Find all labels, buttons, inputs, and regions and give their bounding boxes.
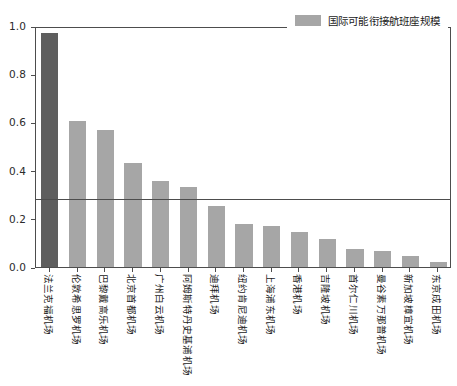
bar: [430, 262, 447, 267]
x-axis-label: 法兰克福机场: [43, 274, 53, 335]
legend-label: 国际可能衔接航班座规模: [328, 13, 440, 28]
plot-area: [35, 27, 451, 268]
reference-hline: [36, 199, 450, 200]
x-axis-label: 阿姆斯特丹史基浦机场: [182, 274, 192, 376]
bar: [263, 226, 280, 267]
x-axis-label: 首尔仁川机场: [348, 274, 358, 335]
bar: [374, 251, 391, 267]
x-axis-tick-mark: [243, 268, 244, 272]
bar: [402, 256, 419, 267]
x-axis-tick-mark: [215, 268, 216, 272]
x-axis-label: 吉隆坡机场: [321, 274, 331, 325]
x-axis-label: 上海浦东机场: [265, 274, 275, 335]
bar: [41, 33, 58, 267]
x-axis-tick-mark: [382, 268, 383, 272]
x-axis-tick-mark: [271, 268, 272, 272]
x-axis-tick-mark: [298, 268, 299, 272]
bar: [208, 206, 225, 267]
y-axis-tick-label: 0.0: [9, 261, 26, 273]
x-axis-label: 纽约肯尼迪机场: [238, 274, 248, 345]
x-axis-tick-mark: [104, 268, 105, 272]
legend-swatch-icon: [295, 15, 321, 26]
y-axis-tick-label: 1.0: [9, 20, 26, 32]
x-axis-tick-mark: [354, 268, 355, 272]
y-axis-tick-label: 0.4: [9, 165, 26, 177]
x-axis-label: 新加坡樟宜机场: [404, 274, 414, 345]
y-axis-tick-label: 0.2: [9, 213, 26, 225]
x-axis-label: 北京首都机场: [127, 274, 137, 335]
x-axis-label: 东京成田机场: [432, 274, 442, 335]
x-axis-label: 伦敦希思罗机场: [71, 274, 81, 345]
x-axis-tick-mark: [409, 268, 410, 272]
bar: [235, 224, 252, 267]
x-axis-label: 曼谷素万那普机场: [376, 274, 386, 356]
x-axis-label: 巴黎戴高乐机场: [99, 274, 109, 345]
bar: [69, 121, 86, 267]
x-axis-tick-mark: [326, 268, 327, 272]
chart-legend: 国际可能衔接航班座规模: [287, 8, 448, 33]
bar: [319, 239, 336, 267]
x-axis-label: 香港机场: [293, 274, 303, 315]
bar-chart: 0.00.20.40.60.81.0 法兰克福机场伦敦希思罗机场巴黎戴高乐机场北…: [0, 0, 457, 386]
x-axis-tick-mark: [49, 268, 50, 272]
x-axis-label: 广州白云机场: [154, 274, 164, 335]
bar: [346, 249, 363, 267]
x-axis-tick-mark: [437, 268, 438, 272]
y-axis-tick-label: 0.6: [9, 116, 26, 128]
x-axis-tick-mark: [132, 268, 133, 272]
bar: [124, 163, 141, 267]
x-axis-tick-mark: [188, 268, 189, 272]
bar: [291, 232, 308, 267]
x-axis-label: 迪拜机场: [210, 274, 220, 315]
x-axis-tick-mark: [77, 268, 78, 272]
bar: [152, 181, 169, 267]
x-axis-tick-mark: [160, 268, 161, 272]
y-axis-tick-label: 0.8: [9, 68, 26, 80]
